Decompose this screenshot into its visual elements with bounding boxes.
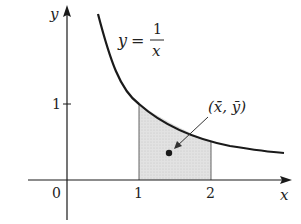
y-axis-label: y bbox=[49, 5, 59, 23]
x-tick-label-2: 2 bbox=[206, 185, 215, 201]
centroid-point bbox=[166, 150, 172, 156]
function-denominator: x bbox=[152, 42, 161, 60]
shaded-region bbox=[139, 104, 211, 180]
function-eq: = bbox=[131, 31, 144, 50]
function-lhs: y bbox=[117, 31, 128, 50]
function-numerator: 1 bbox=[153, 21, 162, 37]
centroid-diagram: y x 0 1 1 2 y = 1 x (x̄, ȳ) bbox=[0, 0, 301, 224]
x-tick-label-1: 1 bbox=[134, 185, 143, 201]
x-axis-label: x bbox=[280, 186, 289, 204]
y-tick-label-1: 1 bbox=[52, 96, 61, 112]
centroid-label: (x̄, ȳ) bbox=[208, 98, 246, 116]
origin-label: 0 bbox=[52, 185, 61, 201]
